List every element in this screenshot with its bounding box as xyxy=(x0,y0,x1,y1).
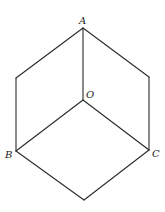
edge-o-c xyxy=(83,100,149,150)
label-b: B xyxy=(4,149,12,160)
label-c: C xyxy=(152,148,160,159)
edge-b-bottom xyxy=(16,151,84,200)
cube-diagram: A O B C xyxy=(0,0,165,212)
edge-c-bottom xyxy=(84,150,149,200)
edge-a-upper-right xyxy=(83,28,149,77)
edge-a-upper-left xyxy=(16,28,83,78)
label-a: A xyxy=(78,15,86,26)
label-o: O xyxy=(86,89,94,100)
edge-o-b xyxy=(16,100,83,151)
